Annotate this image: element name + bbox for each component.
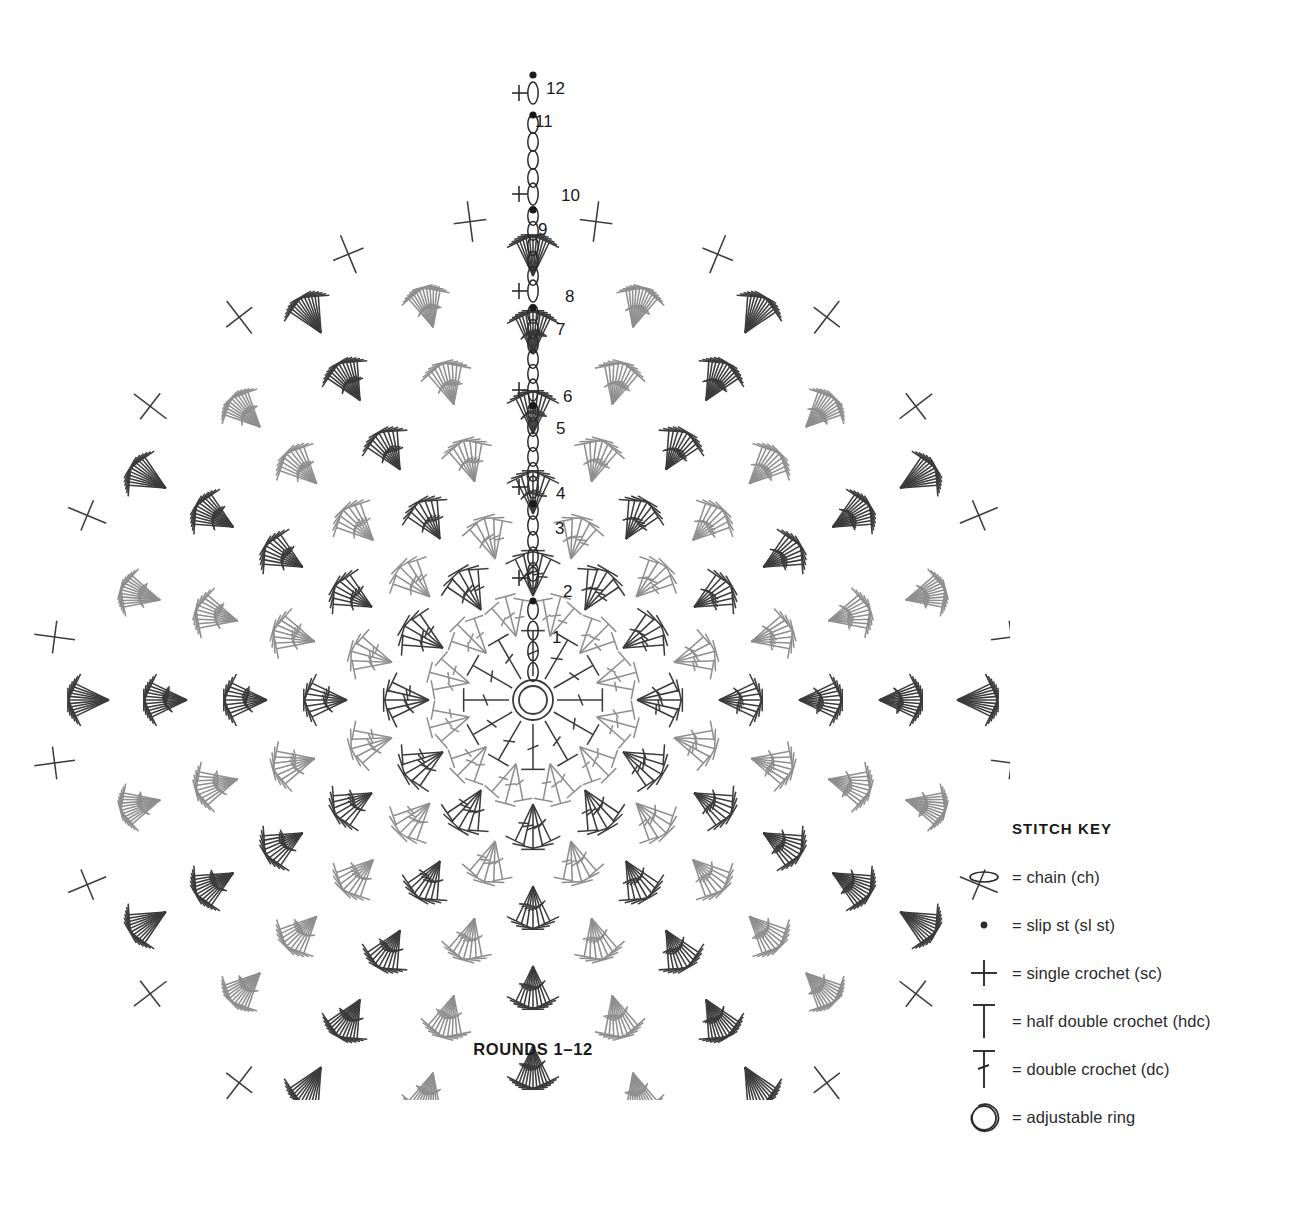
key-row-double-crochet: = double crochet (dc) — [955, 1045, 1285, 1093]
round-label-10: 10 — [561, 186, 580, 205]
round-label-2: 2 — [563, 582, 572, 601]
round-label-5: 5 — [556, 419, 565, 438]
key-row-single-crochet: = single crochet (sc) — [955, 949, 1285, 997]
key-row-half-double-crochet: = half double crochet (hdc) — [955, 997, 1285, 1045]
round-label-7: 7 — [556, 320, 565, 339]
key-row-chain: = chain (ch) — [955, 853, 1285, 901]
round-label-12: 12 — [546, 79, 565, 98]
stitch-key-panel: STITCH KEY = chain (ch) = slip st (sl st… — [955, 820, 1285, 1141]
key-label-chain: = chain (ch) — [1012, 868, 1100, 887]
chain-icon — [955, 853, 1012, 901]
key-row-slip-stitch: = slip st (sl st) — [955, 901, 1285, 949]
round-label-9: 9 — [538, 220, 547, 239]
round-label-8: 8 — [565, 287, 574, 306]
stitch-key-title: STITCH KEY — [1012, 820, 1285, 837]
round-label-4: 4 — [556, 484, 565, 503]
key-label-double-crochet: = double crochet (dc) — [1012, 1060, 1170, 1079]
round-label-11: 11 — [535, 112, 553, 131]
key-label-half-double-crochet: = half double crochet (hdc) — [1012, 1012, 1211, 1031]
double-crochet-icon — [955, 1045, 1012, 1093]
round-label-3: 3 — [555, 519, 564, 538]
single-crochet-icon — [955, 949, 1012, 997]
adjustable-ring-icon — [955, 1093, 1012, 1141]
adjustable-ring — [513, 680, 553, 720]
round-label-1: 1 — [552, 628, 561, 647]
crochet-chart-diagram: 123456789101112 — [0, 0, 1010, 1100]
crochet-chart-svg: 123456789101112 — [0, 0, 1010, 1100]
key-label-slip-stitch: = slip st (sl st) — [1012, 916, 1115, 935]
round-label-6: 6 — [563, 387, 572, 406]
rounds-layer — [34, 201, 1010, 1100]
key-row-adjustable-ring: = adjustable ring — [955, 1093, 1285, 1141]
chart-caption: ROUNDS 1–12 — [0, 1040, 1066, 1059]
key-label-single-crochet: = single crochet (sc) — [1012, 964, 1162, 983]
slip-stitch-icon — [955, 901, 1012, 949]
half-double-crochet-icon — [955, 997, 1012, 1045]
key-label-adjustable-ring: = adjustable ring — [1012, 1108, 1135, 1127]
